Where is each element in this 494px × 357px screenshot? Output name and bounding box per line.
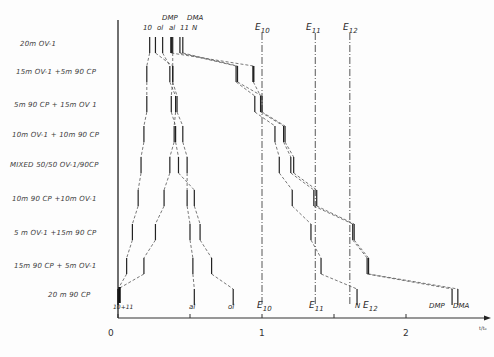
top-label-dma: DMA bbox=[187, 14, 203, 22]
x-tick-1: 1 bbox=[259, 328, 265, 338]
connector-n bbox=[292, 206, 311, 224]
connector-n bbox=[321, 274, 357, 289]
top-label-e10: E10 bbox=[255, 22, 270, 35]
connector-dmp bbox=[353, 240, 367, 258]
connector-11 bbox=[155, 206, 164, 224]
row-label-4: 10m OV-1 + 10m 90 CP bbox=[12, 131, 99, 139]
row-label-1: 20m OV-1 bbox=[20, 40, 56, 48]
row-label-8: 15m 90 CP + 5m OV-1 bbox=[14, 262, 96, 270]
diagram-canvas: 20m OV-1 15m OV-1 +5m 90 CP 5m 90 CP + 1… bbox=[0, 0, 494, 357]
top-label-e12: E12 bbox=[343, 22, 358, 35]
top-label-ol: ol bbox=[157, 24, 163, 32]
bottom-label-e12: E12 bbox=[363, 300, 378, 313]
connector-11 bbox=[164, 173, 170, 190]
x-tick-2: 2 bbox=[403, 328, 409, 338]
connector-al bbox=[177, 112, 183, 126]
connector-10 bbox=[132, 206, 138, 224]
connector-al bbox=[183, 142, 187, 157]
x-axis-unit: t/t₀ bbox=[479, 325, 487, 331]
connector-al bbox=[193, 274, 194, 289]
connector-n bbox=[311, 240, 321, 258]
top-label-e11: E11 bbox=[306, 22, 321, 35]
row-label-2: 15m OV-1 +5m 90 CP bbox=[16, 68, 96, 76]
connector-dma bbox=[183, 53, 238, 66]
connector-10 bbox=[141, 142, 144, 157]
connector-n bbox=[279, 173, 292, 190]
connector-10 bbox=[138, 173, 141, 190]
connector-10 bbox=[144, 112, 147, 126]
x-axis-arrow-icon bbox=[484, 316, 491, 321]
bottom-label-ol: ol bbox=[228, 303, 234, 311]
connector-dma bbox=[294, 173, 317, 190]
connector-n bbox=[255, 112, 275, 126]
connector-ol bbox=[212, 274, 234, 289]
connector-dma bbox=[238, 82, 262, 96]
connector-dmp bbox=[253, 82, 260, 96]
bottom-label-10-11: 10+11 bbox=[113, 303, 133, 310]
x-tick-0: 0 bbox=[108, 328, 114, 338]
connector-ol bbox=[178, 173, 194, 190]
connector-11 bbox=[118, 274, 144, 289]
connector-ol bbox=[194, 206, 200, 224]
connector-n bbox=[236, 82, 255, 96]
row-label-5: MIXED 50/50 OV-1/90CP bbox=[10, 161, 99, 169]
connector-dma bbox=[285, 142, 294, 157]
connector-ol bbox=[200, 240, 212, 258]
connector-dma bbox=[354, 240, 368, 258]
connector-11 bbox=[144, 240, 156, 258]
connector-11 bbox=[170, 142, 174, 157]
connector-10 bbox=[127, 240, 133, 258]
bottom-label-n: N bbox=[355, 302, 360, 310]
bottom-label-dma: DMA bbox=[453, 302, 469, 310]
connector-al bbox=[187, 206, 190, 224]
row-label-3: 5m 90 CP + 15m OV 1 bbox=[14, 101, 97, 109]
bottom-label-dmp: DMP bbox=[429, 302, 445, 310]
top-label-11: 11 bbox=[180, 24, 189, 32]
top-label-dmp: DMP bbox=[162, 14, 178, 22]
bottom-label-e11: E11 bbox=[309, 300, 324, 313]
elution-diagram bbox=[0, 0, 494, 357]
connector-dma bbox=[317, 206, 354, 224]
row-label-9: 20 m 90 CP bbox=[48, 291, 90, 299]
connector-dmp bbox=[314, 206, 353, 224]
bottom-label-al: al bbox=[189, 303, 195, 311]
top-label-al: al bbox=[169, 24, 175, 32]
connector-ol bbox=[176, 142, 179, 157]
connector-dmp bbox=[171, 53, 253, 66]
top-label-10: 10 bbox=[143, 24, 152, 32]
bottom-label-e10: E10 bbox=[257, 300, 272, 313]
connector-n bbox=[275, 142, 279, 157]
row-label-7: 5 m OV-1 +15m 90 CP bbox=[14, 229, 96, 237]
connector-10 bbox=[147, 53, 150, 66]
row-label-6: 10m 90 CP +10m OV-1 bbox=[12, 195, 97, 203]
connector-al bbox=[190, 240, 193, 258]
connector-dmp bbox=[291, 173, 314, 190]
connector-dmp bbox=[284, 142, 291, 157]
top-label-n: N bbox=[192, 24, 197, 32]
connector-dma bbox=[369, 274, 458, 289]
